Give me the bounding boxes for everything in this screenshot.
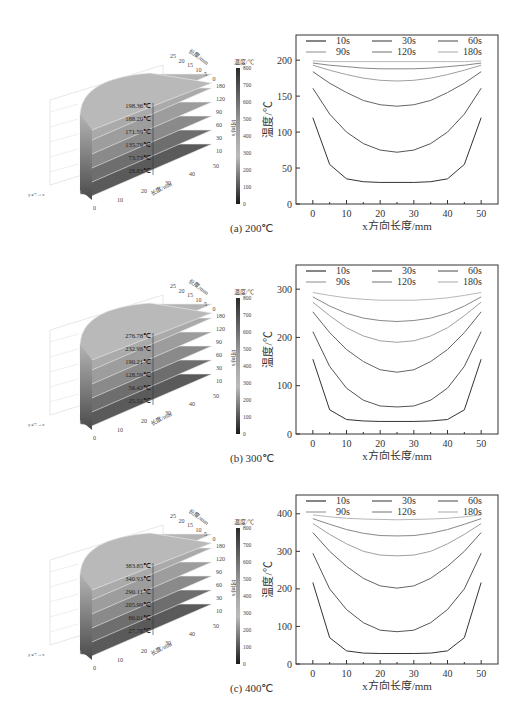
- y-tick-label: 0: [287, 199, 292, 210]
- temperature-label: 190.21℃: [125, 358, 151, 365]
- colorbar-tick: 100: [243, 644, 252, 650]
- y-tick-label: 0: [287, 659, 292, 670]
- colorbar-tick: 500: [243, 576, 252, 582]
- colorbar-tick: 800: [243, 525, 252, 531]
- series-180s: [313, 61, 481, 62]
- series-30s: [313, 332, 481, 407]
- length-tick: 20: [141, 418, 147, 424]
- y-tick-label: 150: [277, 91, 292, 102]
- colorbar-tick: 0: [243, 431, 246, 437]
- width-tick: 20: [179, 288, 185, 294]
- time-tick: 90: [216, 339, 222, 345]
- legend-label: 90s: [336, 506, 350, 517]
- colorbar-tick: 400: [243, 593, 252, 599]
- axis-triad-icon: y↙↑→x: [28, 192, 45, 197]
- colorbar-tick: 800: [243, 295, 252, 301]
- colorbar-tick: 200: [243, 167, 252, 173]
- x-tick-label: 30: [409, 438, 419, 449]
- time-tick: 30: [216, 135, 222, 141]
- temperature-label: 135.79℃: [125, 141, 151, 148]
- time-tick: 10: [216, 378, 222, 384]
- colorbar-tick: 500: [243, 116, 252, 122]
- length-tick: 0: [93, 665, 96, 671]
- time-tick: 30: [216, 365, 222, 371]
- width-tick: 10: [196, 297, 202, 303]
- series-60s: [313, 72, 481, 107]
- colorbar-tick: 200: [243, 397, 252, 403]
- x-tick-label: 0: [310, 668, 315, 679]
- x-tick-label: 20: [375, 668, 385, 679]
- temperature-label: 290.11℃: [125, 588, 151, 595]
- x-tick-label: 20: [375, 208, 385, 219]
- temperature-label: 56.42℃: [128, 384, 151, 391]
- width-tick: 5: [204, 301, 207, 307]
- colorbar-tick: 0: [243, 661, 246, 667]
- time-tick: 120: [216, 96, 225, 102]
- legend-label: 90s: [336, 46, 350, 57]
- legend-label: 60s: [468, 265, 482, 276]
- series-30s: [313, 553, 481, 631]
- legend-label: 90s: [336, 276, 350, 287]
- x-axis-label: x方向长度/mm: [362, 679, 432, 690]
- slice-plot-3d-a: 198.36℃188.20℃171.59℃135.79℃73.73℃28.83℃…: [0, 0, 260, 220]
- time-tick: 10: [216, 608, 222, 614]
- length-axis-label: 长度/mm: [149, 180, 173, 198]
- caption-a: (a) 200℃: [230, 222, 273, 235]
- width-tick: 10: [196, 527, 202, 533]
- legend-label: 10s: [336, 35, 350, 46]
- line-chart-b: 010203040500100200300x方向长度/mm温度/℃10s30s6…: [260, 230, 525, 460]
- temperature-label: 25.51℃: [128, 397, 151, 404]
- axis-triad-icon: y↙↑→x: [28, 422, 45, 427]
- colorbar-tick: 700: [243, 312, 252, 318]
- colorbar-tick: 300: [243, 610, 252, 616]
- x-tick-label: 40: [443, 668, 453, 679]
- length-tick: 10: [117, 657, 123, 663]
- width-tick: 15: [187, 62, 193, 68]
- legend-label: 60s: [468, 495, 482, 506]
- colorbar-tick: 400: [243, 363, 252, 369]
- y-tick-label: 400: [277, 508, 292, 519]
- colorbar-tick: 500: [243, 346, 252, 352]
- temperature-label: 205.99℃: [125, 601, 151, 608]
- temperature-label: 171.59℃: [125, 128, 151, 135]
- x-tick-label: 40: [443, 438, 453, 449]
- length-axis-label: 长度/mm: [149, 640, 173, 658]
- y-tick-label: 300: [277, 546, 292, 557]
- y-tick-label: 300: [277, 284, 292, 295]
- series-90s: [313, 65, 481, 81]
- colorbar-tick: 700: [243, 82, 252, 88]
- temperature-label: 188.20℃: [125, 115, 151, 122]
- length-tick: 0: [93, 205, 96, 211]
- length-tick: 50: [213, 163, 219, 169]
- y-tick-label: 100: [277, 621, 292, 632]
- time-tick: 90: [216, 569, 222, 575]
- width-tick: 10: [196, 67, 202, 73]
- temperature-label: 340.93℃: [125, 575, 151, 582]
- x-tick-label: 10: [342, 668, 352, 679]
- colorbar-tick: 700: [243, 542, 252, 548]
- colorbar-tick: 300: [243, 150, 252, 156]
- colorbar-tick: 100: [243, 184, 252, 190]
- time-tick: 180: [216, 543, 225, 549]
- time-tick: 120: [216, 326, 225, 332]
- temperature-label: 27.78℃: [128, 627, 151, 634]
- width-tick: 20: [179, 58, 185, 64]
- temperature-label: 128.59℃: [125, 371, 151, 378]
- series-180s: [313, 293, 481, 301]
- width-tick: 15: [187, 292, 193, 298]
- length-tick: 50: [213, 623, 219, 629]
- x-tick-label: 50: [476, 668, 486, 679]
- x-tick-label: 10: [342, 208, 352, 219]
- series-120s: [313, 63, 481, 69]
- legend-label: 120s: [397, 276, 416, 287]
- temperature-label: 73.73℃: [128, 154, 151, 161]
- width-tick: 5: [204, 71, 207, 77]
- width-tick: 20: [179, 518, 185, 524]
- width-tick: 0: [213, 76, 216, 82]
- series-120s: [313, 519, 481, 536]
- x-tick-label: 50: [476, 438, 486, 449]
- y-axis-label: 温度/℃: [261, 561, 274, 597]
- plot-frame: [296, 265, 498, 434]
- time-tick: 180: [216, 313, 225, 319]
- series-10s: [313, 359, 481, 421]
